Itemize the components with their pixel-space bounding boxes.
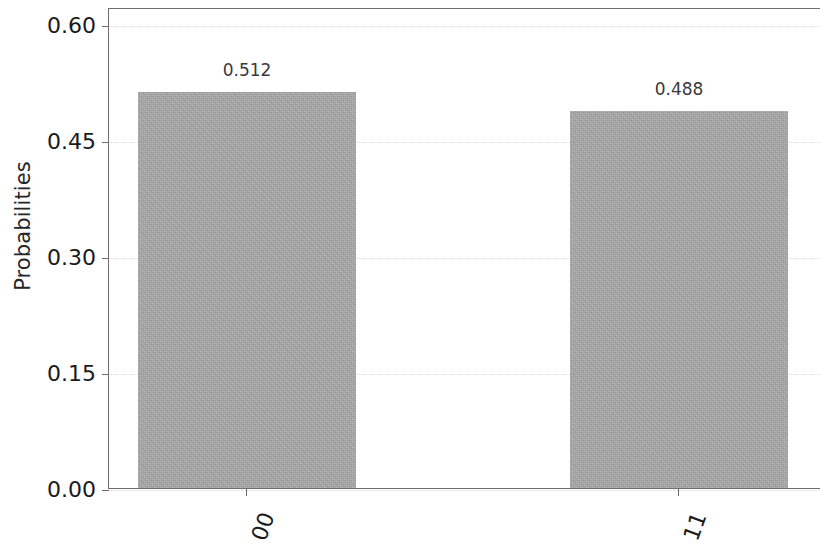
gridline (109, 26, 820, 27)
y-tick-label: 0.00 (6, 477, 96, 502)
x-tick-mark (678, 489, 679, 496)
plot-area: 0.5120.488 (108, 8, 820, 489)
y-tick-label: 0.15 (6, 361, 96, 386)
x-tick-label: 11 (678, 509, 711, 544)
y-tick-mark (102, 258, 109, 259)
y-tick-mark (102, 142, 109, 143)
bar (570, 111, 788, 488)
y-tick-label: 0.60 (6, 13, 96, 38)
x-tick-mark (246, 489, 247, 496)
y-tick-mark (102, 26, 109, 27)
bar (138, 92, 356, 488)
bar-value-label: 0.488 (655, 79, 704, 99)
x-axis-ticks: 0011 (108, 489, 820, 535)
y-tick-label: 0.30 (6, 245, 96, 270)
bar-value-label: 0.512 (223, 60, 272, 80)
x-tick-label: 00 (246, 509, 279, 544)
y-axis-tick-labels: 0.000.150.300.450.60 (0, 8, 96, 489)
y-tick-label: 0.45 (6, 129, 96, 154)
y-tick-mark (102, 374, 109, 375)
